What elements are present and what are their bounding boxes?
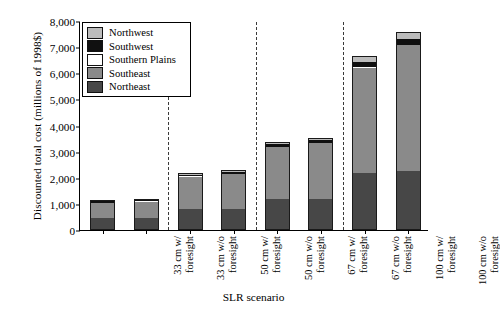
y-tick-mark: [76, 22, 80, 23]
x-tick-mark: [408, 230, 409, 234]
legend-item: Northwest: [87, 26, 186, 39]
y-tick-mark: [76, 74, 80, 75]
stacked-bar[interactable]: [308, 138, 333, 230]
bar-segment-southeast: [90, 203, 115, 218]
bar-segment-northeast: [308, 199, 333, 230]
x-tick-mark: [277, 230, 278, 234]
bar-segment-southeast: [221, 174, 246, 209]
stacked-bar[interactable]: [134, 199, 159, 230]
x-tick-label-line: foresight: [489, 236, 500, 300]
y-tick-label: 8,000: [0, 16, 80, 28]
x-tick-label-line: foresight: [445, 236, 457, 300]
bar-segment-northeast: [221, 209, 246, 230]
chart-legend: NorthwestSouthwestSouthern PlainsSouthea…: [82, 22, 191, 97]
stacked-bar[interactable]: [352, 56, 377, 231]
y-tick-label: 2,000: [0, 173, 80, 185]
y-tick-mark: [76, 100, 80, 101]
legend-label: Southwest: [109, 41, 153, 52]
group-separator-line: [343, 22, 344, 230]
legend-swatch-southeast: [87, 67, 103, 79]
y-tick-label: 3,000: [0, 147, 80, 159]
bar-segment-southeast: [265, 147, 290, 198]
x-tick-label: 100 cm w/foresight: [434, 236, 457, 300]
bar-segment-northeast: [265, 199, 290, 230]
x-tick-mark: [365, 230, 366, 234]
bar-segment-southeast: [134, 202, 159, 218]
y-tick-mark: [76, 204, 80, 205]
y-tick-label: 5,000: [0, 94, 80, 106]
x-tick-label-line: 100 cm w/o: [477, 236, 489, 300]
legend-swatch-northwest: [87, 27, 103, 39]
bar-segment-northeast: [90, 218, 115, 230]
legend-swatch-northeast: [87, 81, 103, 93]
y-tick-label: 4,000: [0, 121, 80, 133]
legend-label: Northwest: [109, 27, 153, 38]
stacked-bar[interactable]: [265, 142, 290, 230]
x-axis-title: SLR scenario: [79, 291, 428, 303]
x-tick-label-line: 100 cm w/: [434, 236, 446, 300]
legend-item: Southeast: [87, 67, 186, 80]
bar-segment-northeast: [396, 171, 421, 230]
bar-segment-southeast: [396, 45, 421, 170]
bar-segment-northwest: [396, 32, 421, 39]
group-separator-line: [256, 22, 257, 230]
x-tick-mark: [190, 230, 191, 234]
y-tick-mark: [76, 48, 80, 49]
legend-swatch-southern-plains: [87, 54, 103, 66]
y-tick-mark: [76, 126, 80, 127]
y-tick-mark: [76, 152, 80, 153]
bar-segment-northeast: [178, 209, 203, 230]
x-tick-mark: [321, 230, 322, 234]
y-tick-mark: [76, 178, 80, 179]
legend-swatch-southwest: [87, 40, 103, 52]
stacked-bar[interactable]: [90, 200, 115, 230]
x-tick-mark: [146, 230, 147, 234]
legend-label: Southern Plains: [109, 54, 176, 65]
bar-segment-southeast: [308, 143, 333, 199]
legend-item: Northeast: [87, 80, 186, 93]
y-tick-mark: [76, 231, 80, 232]
x-tick-mark: [234, 230, 235, 234]
bar-segment-northeast: [134, 218, 159, 230]
x-tick-label: 100 cm w/oforesight: [477, 236, 500, 300]
stacked-bar[interactable]: [221, 170, 246, 230]
legend-item: Southern Plains: [87, 53, 186, 66]
stacked-bar[interactable]: [396, 32, 421, 230]
bar-segment-southeast: [178, 177, 203, 209]
bar-segment-northeast: [352, 173, 377, 230]
y-tick-label: 1,000: [0, 199, 80, 211]
legend-item: Southwest: [87, 40, 186, 53]
y-tick-label: 7,000: [0, 42, 80, 54]
legend-label: Southeast: [109, 68, 150, 79]
bar-segment-southeast: [352, 68, 377, 173]
stacked-bar[interactable]: [178, 173, 203, 230]
x-tick-mark: [103, 230, 104, 234]
y-tick-label: 0: [0, 225, 80, 237]
legend-label: Northeast: [109, 81, 150, 92]
y-tick-label: 6,000: [0, 68, 80, 80]
